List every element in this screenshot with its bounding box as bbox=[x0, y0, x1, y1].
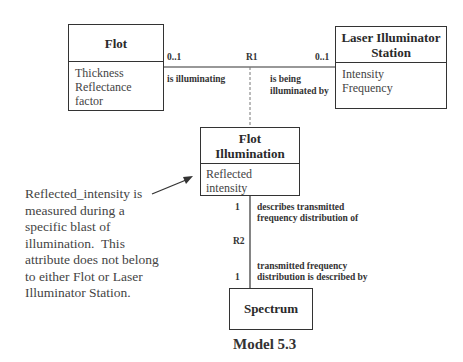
class-laser-title-line1: Laser Illuminator bbox=[341, 30, 440, 45]
arrow-head-icon bbox=[183, 176, 193, 184]
class-spectrum-title: Spectrum bbox=[244, 301, 298, 317]
r2-bottom-phrase-line2: distribution is described by bbox=[257, 272, 368, 283]
class-flot-illumination-title: Flot Illumination bbox=[201, 128, 299, 164]
r1-right-phrase-line2: illuminated by bbox=[270, 86, 329, 97]
class-flot-illumination[interactable]: Flot Illumination Reflected intensity bbox=[200, 127, 300, 196]
r1-left-phrase: is illuminating bbox=[167, 74, 225, 85]
class-spectrum[interactable]: Spectrum bbox=[229, 288, 313, 330]
r1-right-multiplicity: 0..1 bbox=[315, 52, 329, 63]
r2-top-multiplicity: 1 bbox=[235, 202, 240, 213]
attribute-frequency: Frequency bbox=[342, 81, 440, 95]
note-line: Illuminator Station. bbox=[25, 285, 159, 302]
class-laser-title-line2: Station bbox=[371, 45, 411, 60]
note-line: measured during a bbox=[25, 203, 159, 220]
note-line: illumination. This bbox=[25, 236, 159, 253]
class-flot-illumination-title-line2: Illumination bbox=[215, 146, 284, 161]
note-line: to either Flot or Laser bbox=[25, 269, 159, 286]
class-flot-illumination-title-line1: Flot bbox=[239, 131, 261, 146]
note-line: attribute does not belong bbox=[25, 252, 159, 269]
class-flot[interactable]: Flot Thickness Reflectance factor bbox=[68, 24, 164, 111]
r1-label: R1 bbox=[246, 52, 258, 63]
attribute-reflectance-factor: Reflectance factor bbox=[75, 80, 157, 108]
r2-label: R2 bbox=[233, 236, 245, 247]
note-line: Reflected_intensity is bbox=[25, 186, 159, 203]
figure-caption: Model 5.3 bbox=[233, 336, 296, 353]
attribute-reflected-intensity: Reflected intensity bbox=[206, 167, 294, 195]
r1-right-phrase-line1: is being bbox=[270, 74, 301, 85]
r2-top-phrase-line2: frequency distribution of bbox=[257, 213, 358, 224]
class-laser-attributes: Intensity Frequency bbox=[336, 63, 446, 99]
r2-bottom-phrase-line1: transmitted frequency bbox=[257, 261, 347, 272]
attribute-intensity: Intensity bbox=[342, 67, 440, 81]
r2-bottom-multiplicity: 1 bbox=[235, 272, 240, 283]
class-flot-title: Flot bbox=[69, 25, 163, 62]
note-line: specific blast of bbox=[25, 219, 159, 236]
class-flot-attributes: Thickness Reflectance factor bbox=[69, 62, 163, 112]
class-laser-illuminator-station[interactable]: Laser Illuminator Station Intensity Freq… bbox=[335, 26, 447, 109]
r1-left-multiplicity: 0..1 bbox=[167, 52, 181, 63]
r2-top-phrase-line1: describes transmitted bbox=[257, 202, 344, 213]
attribute-thickness: Thickness bbox=[75, 66, 157, 80]
note-text: Reflected_intensity is measured during a… bbox=[25, 186, 159, 302]
class-flot-illumination-attributes: Reflected intensity bbox=[201, 164, 299, 198]
class-laser-title: Laser Illuminator Station bbox=[336, 27, 446, 63]
